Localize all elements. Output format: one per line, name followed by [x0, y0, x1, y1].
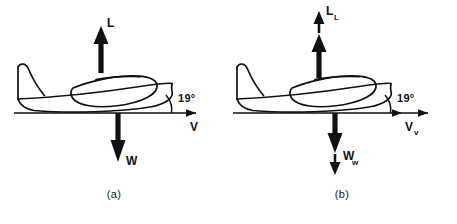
panel-a-stage: 19° L W V — [0, 0, 228, 190]
weight-vector-b-secondary — [330, 154, 341, 175]
lift-vector-a — [94, 26, 109, 73]
lift-vector-b-secondary — [314, 11, 325, 33]
lift-arrowhead-b-2 — [314, 11, 325, 24]
lift-label-b: L — [326, 4, 334, 18]
velocity-arrowhead-b-1 — [392, 109, 402, 117]
velocity-label-b: V — [405, 120, 413, 134]
panel-b: 19° L L — [228, 0, 456, 224]
weight-label-subscript-b: w — [351, 158, 359, 167]
weight-label-a: W — [126, 154, 138, 168]
velocity-label-a: V — [190, 120, 198, 134]
weight-vector-b-primary — [328, 113, 343, 153]
weight-vector-a — [111, 113, 126, 162]
lift-vector-b-primary — [312, 34, 327, 78]
weight-arrowhead-a-1 — [111, 140, 126, 162]
angle-label-a: 19° — [178, 92, 196, 104]
panel-b-diagram: 19° L L — [228, 0, 456, 190]
panel-a-caption: (a) — [0, 188, 228, 200]
airplane-silhouette-a — [18, 64, 172, 112]
lift-label-a: L — [107, 16, 115, 30]
panel-b-stage: 19° L L — [228, 0, 456, 190]
weight-arrowhead-b-1 — [328, 133, 343, 153]
lift-label-subscript-b: L — [334, 13, 339, 22]
panel-a: 19° L W V (a) — [0, 0, 228, 224]
velocity-arrowhead-a-1 — [186, 109, 196, 117]
panel-b-caption: (b) — [228, 188, 456, 200]
panel-a-diagram: 19° L W V — [0, 0, 228, 190]
velocity-label-subscript-b: v — [414, 128, 419, 137]
angle-label-b: 19° — [397, 92, 415, 104]
velocity-arrowhead-b-2 — [418, 109, 428, 117]
force-vector-figure: 19° L W V (a) — [0, 0, 457, 224]
airplane-silhouette-b — [237, 64, 391, 112]
weight-arrowhead-b-2 — [330, 162, 341, 175]
lift-arrowhead-b-1 — [312, 34, 327, 52]
